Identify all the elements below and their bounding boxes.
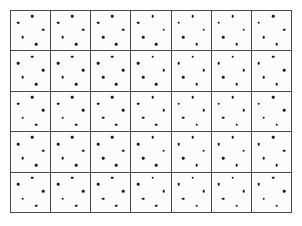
dot-marker bbox=[62, 116, 65, 119]
dot-marker bbox=[31, 15, 34, 18]
dot-marker bbox=[21, 36, 24, 39]
grid-cell bbox=[252, 132, 291, 171]
dot-marker bbox=[258, 102, 261, 105]
dot-marker bbox=[17, 22, 20, 25]
dot-marker bbox=[217, 62, 220, 65]
dot-marker bbox=[195, 164, 198, 167]
dot-marker bbox=[217, 22, 220, 25]
dot-marker bbox=[137, 183, 140, 186]
grid-cell bbox=[51, 132, 90, 171]
dot-marker bbox=[182, 76, 185, 79]
grid-cell bbox=[51, 51, 90, 90]
dot-marker bbox=[31, 55, 34, 58]
dot-marker bbox=[142, 116, 145, 119]
dot-marker bbox=[31, 136, 34, 139]
dot-marker bbox=[232, 55, 235, 58]
dot-marker bbox=[31, 176, 34, 179]
dot-marker bbox=[97, 183, 100, 186]
grid-cell bbox=[131, 173, 170, 212]
dot-marker bbox=[31, 96, 34, 99]
dot-marker bbox=[191, 96, 194, 99]
dot-marker bbox=[17, 102, 20, 105]
dot-marker bbox=[102, 157, 105, 160]
dot-marker bbox=[102, 76, 105, 79]
dot-marker bbox=[42, 149, 45, 152]
dot-marker bbox=[35, 124, 38, 127]
grid-cell bbox=[172, 51, 211, 90]
dot-marker bbox=[195, 124, 198, 127]
dot-marker bbox=[151, 15, 154, 18]
dot-marker bbox=[111, 136, 114, 139]
dot-marker bbox=[35, 204, 38, 207]
dot-marker bbox=[262, 157, 265, 160]
dot-marker bbox=[57, 183, 60, 186]
dot-marker bbox=[115, 164, 118, 167]
grid-cell bbox=[131, 51, 170, 90]
grid-cell bbox=[172, 92, 211, 131]
dot-marker bbox=[75, 124, 78, 127]
grid-cell bbox=[212, 51, 251, 90]
grid-cell bbox=[172, 132, 211, 171]
dot-marker bbox=[182, 157, 185, 160]
dot-marker bbox=[222, 76, 225, 79]
dot-marker bbox=[97, 62, 100, 65]
grid-cell bbox=[172, 173, 211, 212]
dot-marker bbox=[151, 136, 154, 139]
grid-cell bbox=[11, 92, 50, 131]
dot-marker bbox=[195, 204, 198, 207]
grid-cell bbox=[212, 92, 251, 131]
dot-marker bbox=[115, 83, 118, 86]
dot-marker bbox=[272, 136, 275, 139]
dot-marker bbox=[102, 116, 105, 119]
dot-marker bbox=[111, 55, 114, 58]
grid-cell bbox=[131, 132, 170, 171]
dot-marker bbox=[283, 149, 286, 152]
dot-marker bbox=[42, 190, 45, 193]
dot-marker bbox=[137, 102, 140, 105]
dot-marker bbox=[195, 83, 198, 86]
dot-marker bbox=[243, 69, 246, 72]
grid-cell bbox=[11, 11, 50, 50]
dot-marker bbox=[283, 28, 286, 31]
dot-marker bbox=[21, 157, 24, 160]
dot-marker bbox=[258, 62, 261, 65]
dot-marker bbox=[122, 109, 125, 112]
dot-marker bbox=[202, 190, 205, 193]
dot-marker bbox=[243, 149, 246, 152]
dot-marker bbox=[82, 28, 85, 31]
dot-marker bbox=[182, 36, 185, 39]
dot-marker bbox=[111, 96, 114, 99]
dot-marker bbox=[42, 69, 45, 72]
dot-marker bbox=[137, 143, 140, 146]
dot-marker bbox=[262, 197, 265, 200]
grid-cell bbox=[212, 173, 251, 212]
dot-marker bbox=[102, 36, 105, 39]
dot-marker bbox=[202, 28, 205, 31]
dot-marker bbox=[17, 183, 20, 186]
dot-marker bbox=[272, 176, 275, 179]
dot-marker bbox=[202, 109, 205, 112]
dot-marker bbox=[75, 204, 78, 207]
dot-marker bbox=[177, 22, 180, 25]
grid-cell bbox=[252, 51, 291, 90]
dot-marker bbox=[283, 109, 286, 112]
dot-marker bbox=[272, 15, 275, 18]
dot-marker bbox=[97, 22, 100, 25]
dot-marker bbox=[42, 109, 45, 112]
dot-marker bbox=[142, 197, 145, 200]
dot-marker bbox=[21, 76, 24, 79]
dot-marker bbox=[82, 149, 85, 152]
dot-marker bbox=[177, 183, 180, 186]
dot-marker bbox=[62, 197, 65, 200]
page-root bbox=[0, 0, 302, 226]
dot-marker bbox=[151, 55, 154, 58]
dot-marker bbox=[137, 62, 140, 65]
grid-cell bbox=[11, 51, 50, 90]
dot-marker bbox=[155, 164, 158, 167]
grid-cell bbox=[51, 173, 90, 212]
dot-marker bbox=[35, 83, 38, 86]
dot-marker bbox=[82, 109, 85, 112]
dot-marker bbox=[142, 157, 145, 160]
grid-cell bbox=[131, 92, 170, 131]
dot-marker bbox=[262, 76, 265, 79]
